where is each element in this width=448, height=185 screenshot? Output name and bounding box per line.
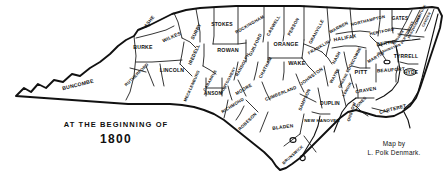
boundary-caswell-person (283, 6, 284, 41)
boundary-lenoir-craven (356, 84, 358, 98)
boundary-onslow-carteret (372, 108, 388, 112)
boundary-surry-stokes (213, 8, 214, 44)
cape-lookout-line (404, 112, 410, 128)
map-credit-block: Map by L. Polk Denmark. (352, 140, 436, 158)
boundary-cumberland-johnston (296, 74, 304, 92)
map-credit-line-2: L. Polk Denmark. (352, 149, 436, 158)
boundary-rowan-cabarrus (203, 66, 216, 74)
boundary-granville-warren (327, 7, 330, 40)
map-title-line-1: AT THE BEGINNING OF (52, 120, 180, 129)
boundary-montgomery-moore (238, 80, 246, 96)
boundary-ne-cluster-5 (398, 34, 424, 37)
boundary-rockingham-caswell (263, 6, 264, 42)
boundary-martin-bertie (378, 46, 386, 60)
boundary-halifax-south (332, 46, 366, 48)
boundary-chatham-randolph (254, 62, 258, 80)
boundary-buncombe-rutherford (130, 68, 146, 72)
boundary-bladen-robeson (260, 112, 268, 132)
boundary-rutherford-lincoln (146, 66, 154, 86)
boundary-lincoln-south (160, 64, 164, 86)
boundary-moore-cumberland (262, 82, 270, 100)
boundary-cumberland-sampson (300, 94, 316, 102)
boundary-wake-chatham (283, 62, 284, 80)
boundary-pitt-greene (350, 74, 354, 88)
boundary-robeson-richmond (236, 106, 244, 120)
boundary-burke-south (136, 60, 182, 62)
boundary-warren-northampton (350, 8, 353, 38)
north-carolina-county-map-1800: BUNCOMBEBURKEASHEWILKESSURRYSTOKESROCKIN… (0, 0, 448, 185)
boundary-halifax-north (336, 31, 370, 34)
boundary-tyrrell-hyde (400, 62, 418, 64)
albemarle-sound (386, 39, 420, 42)
boundary-duplin-lenoir (342, 90, 346, 106)
boundary-newhanover-bladen (300, 114, 304, 134)
boundary-northampton-hertford (378, 9, 380, 36)
boundary-hyde-beaufort (396, 66, 398, 82)
boundary-anson-montgomery (228, 86, 232, 100)
boundary-bladen-brunswick (284, 134, 300, 146)
small-lake-outline (384, 60, 390, 64)
boundary-ashe-wilkes (174, 13, 182, 38)
boundary-pitt-edgecombe (352, 66, 370, 68)
boundary-wilkes-surry (196, 9, 200, 42)
boundary-orange-granville (302, 40, 304, 58)
map-credit-line-1: Map by (352, 140, 436, 149)
boundary-iredell-west (180, 42, 184, 64)
boundary-gates-west (392, 9, 393, 33)
boundary-richmond-anson (224, 100, 228, 118)
cape-fear-river (302, 116, 320, 156)
boundary-franklin-warren (326, 40, 330, 56)
boundary-granville-franklin (304, 44, 322, 52)
boundary-sampson-duplin (318, 88, 322, 108)
boundary-johnston-wayne (324, 66, 328, 86)
boundary-gates-south (392, 28, 410, 30)
boundary-ne-cluster-3 (416, 9, 428, 33)
boundary-iredell-rowan (203, 44, 204, 66)
boundary-duplin-newhanover (312, 112, 330, 114)
boundary-franklin-nash (322, 52, 332, 64)
bladen-lake-outline (290, 138, 296, 143)
hyde-lake-outline (404, 69, 416, 75)
map-title-block: AT THE BEGINNING OF 1800 (52, 120, 180, 146)
boundary-richmond-cumberland (246, 100, 258, 112)
map-title-year: 1800 (52, 132, 180, 146)
boundary-wake-johnston (302, 58, 314, 72)
outer-banks-line (404, 14, 438, 109)
boundary-lincoln-iredell (180, 64, 192, 76)
boundary-wayne-greene (338, 70, 342, 88)
boundary-hertford-bertie (370, 36, 382, 46)
boundary-stokes-rowan-line (213, 43, 246, 44)
boundary-randolph-montgomery (234, 62, 238, 80)
boundary-nash-edgecombe (344, 52, 348, 70)
